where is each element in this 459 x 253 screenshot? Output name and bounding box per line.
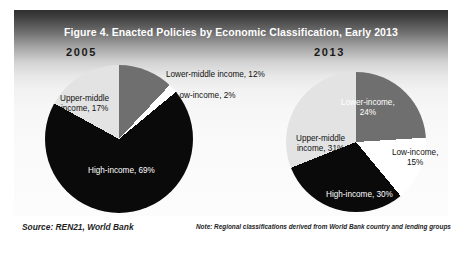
slice-label-2013-lower-income: Lower-income, 24% [341, 98, 395, 119]
figure-panel: Figure 4. Enacted Policies by Economic C… [14, 10, 448, 216]
slice-label-line2: income, 31% [297, 144, 344, 153]
slice-label-line1: Upper-middle [60, 94, 109, 103]
slice-label-line1: Lower-income, [341, 98, 395, 107]
slice-label-line1: Low-income, [392, 148, 438, 157]
slice-label-2005-high-income: High-income, 69% [88, 166, 155, 176]
slice-label-2005-low-income: Low-income, 2% [175, 91, 236, 101]
pie-chart-2005 [45, 65, 193, 213]
year-label-2005: 2005 [66, 46, 97, 58]
source-note: Source: REN21, World Bank [22, 222, 134, 232]
slice-label-2013-high-income: High-income, 30% [326, 190, 393, 200]
slice-label-line2: 15% [407, 158, 423, 167]
year-label-2013: 2013 [314, 46, 345, 58]
figure-title: Figure 4. Enacted Policies by Economic C… [14, 26, 448, 38]
slice-label-line2: income, 17% [61, 104, 108, 113]
slice-label-2005-upper-middle-income: Upper-middle income, 17% [60, 94, 109, 115]
slice-label-line1: Upper-middle [296, 134, 345, 143]
slice-label-2005-lower-middle-income: Lower-middle income, 12% [166, 70, 265, 80]
figure-root: Figure 4. Enacted Policies by Economic C… [0, 0, 459, 253]
slice-label-2013-low-income: Low-income, 15% [392, 148, 438, 169]
methodology-note: Note: Regional classifications derived f… [196, 223, 451, 230]
slice-label-line2: 24% [360, 108, 376, 117]
slice-label-2013-upper-middle-income: Upper-middle income, 31% [296, 134, 345, 155]
